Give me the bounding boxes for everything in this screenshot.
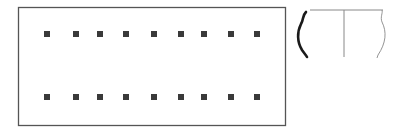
post-hole bbox=[123, 94, 129, 100]
archaeological-figure bbox=[0, 0, 404, 134]
post-hole bbox=[151, 31, 157, 37]
post-hole bbox=[228, 94, 234, 100]
post-hole bbox=[201, 31, 207, 37]
post-holes bbox=[44, 31, 260, 100]
post-hole bbox=[73, 31, 79, 37]
post-hole bbox=[228, 31, 234, 37]
post-hole bbox=[254, 31, 260, 37]
structure-plan-outline bbox=[19, 8, 286, 126]
post-hole bbox=[178, 94, 184, 100]
pottery-vessel-profile bbox=[298, 10, 385, 58]
post-hole bbox=[201, 94, 207, 100]
post-hole bbox=[123, 31, 129, 37]
post-hole bbox=[97, 31, 103, 37]
post-hole bbox=[97, 94, 103, 100]
vessel-exterior-outline bbox=[377, 10, 385, 58]
post-hole bbox=[44, 31, 50, 37]
post-hole bbox=[44, 94, 50, 100]
vessel-section-profile bbox=[298, 12, 307, 57]
post-hole bbox=[151, 94, 157, 100]
post-hole bbox=[73, 94, 79, 100]
post-hole bbox=[178, 31, 184, 37]
post-hole bbox=[254, 94, 260, 100]
